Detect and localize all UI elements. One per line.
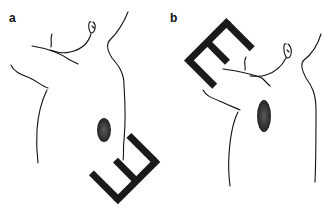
oval-marker-a xyxy=(97,118,111,142)
panel-a-label: a xyxy=(9,11,16,25)
figure: a b xyxy=(0,0,334,216)
ear-a xyxy=(89,22,95,33)
jaw-a xyxy=(50,34,91,53)
panel-b: b xyxy=(170,11,321,186)
arm-a xyxy=(11,65,48,88)
neck-b xyxy=(223,69,270,86)
back-b xyxy=(302,34,321,182)
e-device-b xyxy=(184,18,255,89)
figure-svg: a b xyxy=(0,0,334,216)
panel-a: a xyxy=(9,11,160,204)
back-a xyxy=(108,12,128,160)
oval-marker-b xyxy=(257,100,271,132)
jaw-b xyxy=(250,58,286,76)
panel-b-label: b xyxy=(170,11,177,25)
chin-b xyxy=(245,57,246,70)
chin-a xyxy=(51,34,52,47)
chest-b xyxy=(229,112,238,186)
ear-b xyxy=(284,44,291,58)
chest-a xyxy=(37,90,47,163)
e-device-a xyxy=(89,133,160,204)
neck-a xyxy=(32,46,78,64)
arm-b xyxy=(203,90,240,110)
